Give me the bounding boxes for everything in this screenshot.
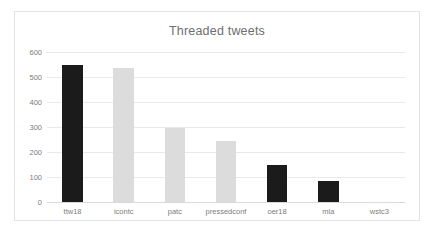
- y-axis-tick-label: 300: [29, 123, 42, 132]
- y-axis-tick-label: 0: [38, 198, 42, 207]
- bar-slot: ttw18: [47, 52, 98, 202]
- bar-series: ttw18icontcpatcpressedconfoer18mlawstc3: [47, 52, 405, 202]
- bar-slot: patc: [149, 52, 200, 202]
- chart-title: Threaded tweets: [15, 24, 419, 38]
- y-axis-tick-label: 100: [29, 173, 42, 182]
- x-axis-tick-label: oer18: [268, 207, 287, 216]
- chart-container: Threaded tweets 0100200300400500600 ttw1…: [14, 11, 420, 221]
- gridline: [47, 202, 405, 203]
- bar[interactable]: [318, 181, 338, 202]
- plot-area: 0100200300400500600 ttw18icontcpatcpress…: [47, 52, 405, 202]
- bar-slot: wstc3: [354, 52, 405, 202]
- bar[interactable]: [113, 68, 133, 202]
- x-axis-tick-label: patc: [168, 207, 182, 216]
- x-axis-tick-label: wstc3: [370, 207, 389, 216]
- bar[interactable]: [267, 165, 287, 203]
- y-axis-tick-label: 500: [29, 73, 42, 82]
- x-axis-tick-label: icontc: [114, 207, 134, 216]
- bar-slot: oer18: [252, 52, 303, 202]
- x-axis-tick-label: ttw18: [64, 207, 82, 216]
- y-axis-tick-label: 600: [29, 48, 42, 57]
- bar[interactable]: [216, 141, 236, 202]
- y-axis-tick-label: 400: [29, 98, 42, 107]
- bar-slot: mla: [303, 52, 354, 202]
- x-axis-tick-label: mla: [322, 207, 334, 216]
- bar[interactable]: [62, 65, 82, 202]
- bar-slot: icontc: [98, 52, 149, 202]
- y-axis-tick-label: 200: [29, 148, 42, 157]
- x-axis-tick-label: pressedconf: [206, 207, 247, 216]
- bar[interactable]: [165, 128, 185, 203]
- bar-slot: pressedconf: [200, 52, 251, 202]
